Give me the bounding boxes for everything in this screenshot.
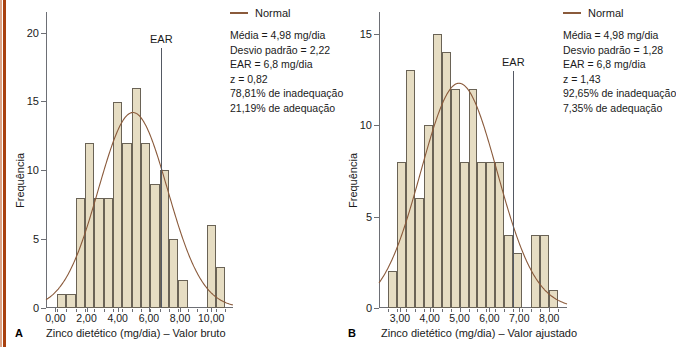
x-minor-tick-b [504,309,505,312]
panel-b: Frequência EAR 0510153,004,005,006,007,0… [331,0,663,347]
normal-curve-a [46,12,233,308]
ear-line-b [513,71,514,308]
x-tick-label-a: 4,00 [107,313,127,324]
x-axis-title-a: Zinco dietético (mg/dia) – Valor bruto [46,327,226,339]
stat-line: Desvio padrão = 2,22 [230,43,343,58]
plot-area-a: EAR 051015200,002,004,006,008,0010,00 [46,12,233,308]
stat-line: 7,35% de adequação [563,101,676,116]
y-tick-label-b: 5 [366,211,372,222]
y-tick-b [374,34,379,35]
stat-line: Desvio padrão = 1,28 [563,43,676,58]
x-minor-tick-a [160,309,161,312]
y-axis-title-b: Frequência [347,153,359,208]
normal-curve-b [379,12,567,308]
y-tick-a [41,239,46,240]
x-tick-label-b: 3,00 [390,313,410,324]
y-tick-label-a: 10 [27,165,39,176]
x-minor-tick-a [225,309,226,312]
ear-line-a [161,48,162,308]
y-tick-a [41,308,46,309]
y-tick-b [374,217,379,218]
legend-a: Normal Média = 4,98 mg/diaDesvio padrão … [230,6,343,115]
x-tick-label-b: 8,00 [539,313,559,324]
stats-block-b: Média = 4,98 mg/diaDesvio padrão = 1,28E… [563,28,676,115]
x-tick-label-a: 2,00 [76,313,96,324]
legend-label-normal-a: Normal [255,8,290,19]
legend-label-normal-b: Normal [588,8,623,19]
legend-entry-normal-b: Normal [563,6,676,20]
x-tick-label-b: 4,00 [420,313,440,324]
x-tick-label-b: 7,00 [509,313,529,324]
y-tick-label-b: 0 [366,303,372,314]
stat-line: Média = 4,98 mg/dia [563,28,676,43]
panel-letter-a: A [15,327,23,339]
x-tick-label-a: 6,00 [139,313,159,324]
legend-entry-normal-a: Normal [230,6,343,20]
panel-letter-b: B [348,327,356,339]
normal-curve-path [379,83,567,304]
y-tick-label-a: 20 [27,27,39,38]
stat-line: z = 1,43 [563,72,676,87]
stat-line: 21,19% de adequação [230,101,343,116]
plot-area-b: EAR 0510153,004,005,006,007,008,00 [379,12,567,308]
x-tick-label-a: 8,00 [170,313,190,324]
stats-block-a: Média = 4,98 mg/diaDesvio padrão = 2,22E… [230,28,343,115]
y-tick-label-b: 15 [360,28,372,39]
ear-label-b: EAR [502,56,525,68]
normal-curve-path [46,113,233,306]
x-minor-tick-b [415,309,416,312]
y-tick-a [41,33,46,34]
y-tick-a [41,101,46,102]
ear-label-a: EAR [150,33,173,45]
y-tick-b [374,125,379,126]
x-tick-label-b: 5,00 [449,313,469,324]
x-minor-tick-b [531,309,532,312]
y-tick-label-a: 5 [33,234,39,245]
y-tick-a [41,170,46,171]
stat-line: z = 0,82 [230,72,343,87]
panel-a: Frequência EAR 051015200,002,004,006,008… [0,0,332,347]
legend-b: Normal Média = 4,98 mg/diaDesvio padrão … [563,6,676,115]
y-tick-b [374,308,379,309]
x-minor-tick-a [132,309,133,312]
x-tick-label-a: 10,00 [198,313,224,324]
x-minor-tick-a [104,309,105,312]
y-tick-label-a: 0 [33,303,39,314]
x-axis-title-b: Zinco dietético (mg/dia) – Valor ajustad… [381,327,577,339]
stat-line: 78,81% de inadequação [230,86,343,101]
y-tick-label-a: 15 [27,96,39,107]
line-swatch-icon [230,12,248,14]
x-tick-label-a: 0,00 [45,313,65,324]
stat-line: 92,65% de inadequação [563,86,676,101]
x-tick-label-b: 6,00 [479,313,499,324]
y-axis-title-a: Frequência [14,153,26,208]
x-minor-tick-a [66,309,67,312]
x-minor-tick-b [442,309,443,312]
stat-line: EAR = 6,8 mg/dia [563,57,676,72]
stat-line: Média = 4,98 mg/dia [230,28,343,43]
stat-line: EAR = 6,8 mg/dia [230,57,343,72]
y-tick-label-b: 10 [360,120,372,131]
line-swatch-icon [563,12,581,14]
